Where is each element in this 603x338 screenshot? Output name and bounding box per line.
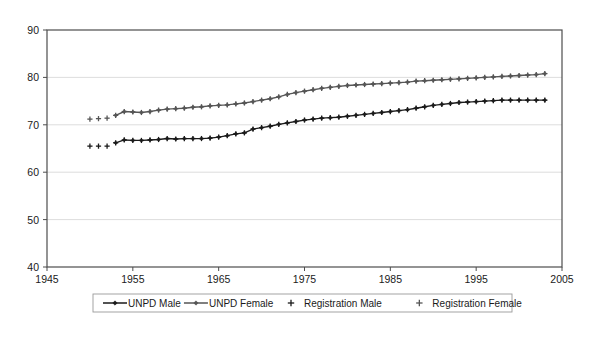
marker-diamond [388, 81, 392, 85]
x-tick-label-1995: 1995 [464, 273, 488, 285]
marker-diamond [303, 118, 307, 122]
marker-diamond [260, 98, 264, 102]
marker-diamond [526, 73, 530, 77]
x-axis-ticks [47, 267, 562, 271]
marker-diamond [466, 100, 470, 104]
marker-diamond [191, 137, 195, 141]
series-unpd-female [114, 72, 547, 118]
marker-diamond [200, 137, 204, 141]
marker-diamond [122, 110, 126, 114]
marker-diamond [268, 97, 272, 101]
marker-diamond [303, 89, 307, 93]
marker-diamond [509, 98, 513, 102]
series-registration-male [87, 98, 547, 149]
marker-diamond [285, 121, 289, 125]
x-tick-label-1945: 1945 [35, 273, 59, 285]
legend-label: Registration Female [432, 298, 522, 309]
marker-diamond [380, 82, 384, 86]
marker-diamond [285, 93, 289, 97]
marker-diamond [406, 80, 410, 84]
marker-diamond [165, 137, 169, 141]
marker-diamond [234, 102, 238, 106]
marker-diamond [200, 105, 204, 109]
marker-diamond [388, 110, 392, 114]
marker-diamond [449, 102, 453, 106]
marker-diamond [174, 137, 178, 141]
marker-diamond [243, 101, 247, 105]
marker-diamond [328, 85, 332, 89]
marker-diamond [406, 108, 410, 112]
marker-diamond [208, 136, 212, 140]
y-tick-label-90: 90 [27, 24, 39, 36]
marker-diamond [397, 109, 401, 113]
marker-diamond [328, 116, 332, 120]
marker-diamond [311, 117, 315, 121]
marker-diamond [217, 103, 221, 107]
marker-diamond [277, 95, 281, 99]
marker-diamond [174, 107, 178, 111]
marker-diamond [337, 115, 341, 119]
marker-diamond [449, 77, 453, 81]
marker-plus [96, 144, 101, 149]
marker-diamond [122, 138, 126, 142]
marker-diamond [457, 101, 461, 105]
marker-diamond [182, 106, 186, 110]
marker-diamond [371, 82, 375, 86]
legend-label: UNPD Male [128, 298, 181, 309]
marker-plus [96, 116, 101, 121]
data-series [87, 71, 547, 149]
marker-diamond [182, 137, 186, 141]
legend-item-registration-female[interactable]: Registration Female [416, 298, 522, 309]
marker-diamond [251, 100, 255, 104]
marker-plus [104, 116, 109, 121]
y-tick-label-40: 40 [27, 261, 39, 273]
marker-diamond [131, 139, 135, 143]
marker-diamond [225, 103, 229, 107]
marker-diamond [354, 83, 358, 87]
marker-diamond [474, 76, 478, 80]
marker-diamond [114, 141, 118, 145]
marker-diamond [474, 100, 478, 104]
chart-legend: UNPD MaleUNPD FemaleRegistration MaleReg… [93, 294, 522, 312]
marker-diamond [346, 114, 350, 118]
marker-diamond [320, 86, 324, 90]
marker-diamond [140, 111, 144, 115]
y-tick-label-50: 50 [27, 214, 39, 226]
marker-diamond [157, 138, 161, 142]
marker-plus [104, 144, 109, 149]
marker-diamond [431, 103, 435, 107]
marker-diamond [277, 122, 281, 126]
series-registration-female [87, 71, 547, 122]
series-line [116, 100, 545, 143]
y-tick-label-80: 80 [27, 71, 39, 83]
series-unpd-male [114, 98, 547, 144]
marker-diamond [543, 98, 547, 102]
plot-area-border [47, 30, 562, 267]
marker-diamond [491, 99, 495, 103]
marker-diamond [234, 132, 238, 136]
marker-diamond [500, 98, 504, 102]
x-axis-tick-labels: 1945195519651975198519952005 [35, 273, 574, 285]
marker-diamond [397, 81, 401, 85]
legend-label: UNPD Female [209, 298, 274, 309]
marker-diamond [431, 78, 435, 82]
marker-diamond [346, 84, 350, 88]
marker-diamond [208, 104, 212, 108]
y-tick-label-60: 60 [27, 166, 39, 178]
marker-diamond [526, 98, 530, 102]
marker-diamond [371, 112, 375, 116]
marker-diamond [517, 98, 521, 102]
marker-diamond [423, 79, 427, 83]
x-tick-label-1965: 1965 [207, 273, 231, 285]
marker-diamond [380, 111, 384, 115]
life-expectancy-chart: 405060708090 194519551965197519851995200… [0, 0, 603, 338]
marker-diamond [363, 112, 367, 116]
x-tick-label-1975: 1975 [293, 273, 317, 285]
marker-diamond [534, 73, 538, 77]
marker-diamond [311, 88, 315, 92]
marker-diamond [148, 110, 152, 114]
x-tick-label-2005: 2005 [550, 273, 574, 285]
marker-diamond [294, 120, 298, 124]
x-tick-label-1985: 1985 [379, 273, 403, 285]
marker-diamond [483, 76, 487, 80]
